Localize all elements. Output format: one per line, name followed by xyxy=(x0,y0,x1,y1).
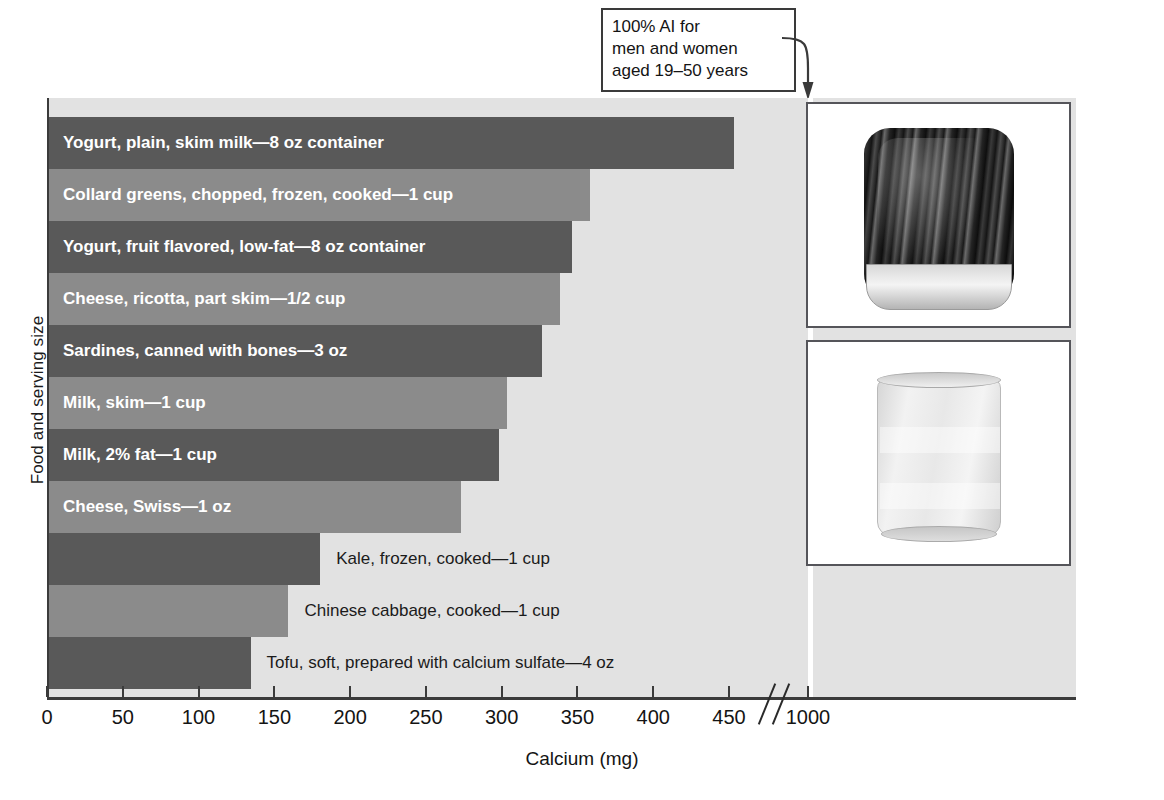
bar-label-8: Kale, frozen, cooked—1 cup xyxy=(336,533,550,585)
can-rim xyxy=(866,264,1012,310)
x-tick-250 xyxy=(425,686,427,697)
bar-8 xyxy=(49,533,320,585)
bar-label-10: Tofu, soft, prepared with calcium sulfat… xyxy=(267,637,615,689)
bar-label-6: Milk, 2% fat—1 cup xyxy=(63,429,217,481)
x-tick-300 xyxy=(501,686,503,697)
x-tick-label-0: 0 xyxy=(41,706,52,729)
x-tick-200 xyxy=(349,686,351,697)
x-tick-50 xyxy=(122,686,124,697)
x-tick-label-450: 450 xyxy=(712,706,745,729)
bar-label-9: Chinese cabbage, cooked—1 cup xyxy=(304,585,559,637)
bar-label-1: Collard greens, chopped, frozen, cooked—… xyxy=(63,169,453,221)
bar-label-5: Milk, skim—1 cup xyxy=(63,377,206,429)
bar-label-0: Yogurt, plain, skim milk—8 oz container xyxy=(63,117,384,169)
x-tick-label-50: 50 xyxy=(112,706,134,729)
x-tick-label-150: 150 xyxy=(258,706,291,729)
glass-highlight-band-2 xyxy=(880,483,1000,509)
glass-rim xyxy=(877,372,1001,388)
bar-label-2: Yogurt, fruit flavored, low-fat—8 oz con… xyxy=(63,221,425,273)
x-tick-label-350: 350 xyxy=(561,706,594,729)
sardine-can-illustration xyxy=(864,120,1014,310)
x-tick-350 xyxy=(576,686,578,697)
callout-line-1: 100% AI for xyxy=(612,16,785,38)
x-tick-label-400: 400 xyxy=(637,706,670,729)
x-tick-400 xyxy=(652,686,654,697)
bar-label-3: Cheese, ricotta, part skim—1/2 cup xyxy=(63,273,346,325)
x-tick-label-250: 250 xyxy=(409,706,442,729)
ai-reference-callout: 100% AI for men and women aged 19–50 yea… xyxy=(601,8,796,92)
glass-of-milk-photo xyxy=(806,340,1071,566)
x-tick-150 xyxy=(273,686,275,697)
milk-glass-illustration xyxy=(877,372,1001,540)
x-tick-100 xyxy=(198,686,200,697)
callout-line-3: aged 19–50 years xyxy=(612,60,785,82)
glass-base xyxy=(881,526,997,542)
y-axis-title: Food and serving size xyxy=(28,270,48,530)
bar-9 xyxy=(49,585,288,637)
callout-line-2: men and women xyxy=(612,38,785,60)
x-tick-label-100: 100 xyxy=(182,706,215,729)
callout-arrow-icon xyxy=(780,22,840,102)
x-tick-label-300: 300 xyxy=(485,706,518,729)
x-tick-0 xyxy=(46,686,48,697)
chart-canvas: Food and serving size 100% AI for men an… xyxy=(0,0,1164,800)
x-tick-450 xyxy=(728,686,730,697)
x-axis-line xyxy=(47,697,1076,700)
axis-break-icon xyxy=(758,682,798,730)
bar-label-4: Sardines, canned with bones—3 oz xyxy=(63,325,347,377)
x-tick-label-200: 200 xyxy=(333,706,366,729)
x-axis-title: Calcium (mg) xyxy=(0,748,1164,770)
glass-body xyxy=(877,378,1001,536)
sardines-can-photo xyxy=(806,102,1071,328)
glass-highlight-band-1 xyxy=(880,427,1000,453)
bar-label-7: Cheese, Swiss—1 oz xyxy=(63,481,231,533)
x-tick-1000 xyxy=(807,686,809,697)
bar-10 xyxy=(49,637,251,689)
